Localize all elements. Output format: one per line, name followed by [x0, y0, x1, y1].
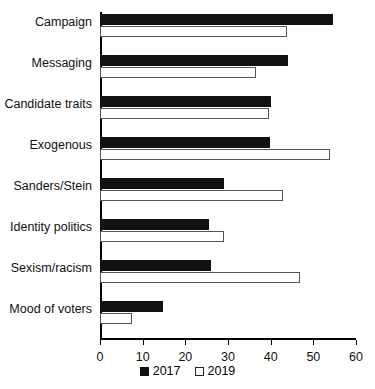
- category-label: Mood of voters: [0, 303, 92, 316]
- x-axis-tick: [228, 340, 229, 345]
- x-axis-tick: [100, 340, 101, 345]
- x-axis-tick-label: 20: [178, 350, 192, 364]
- x-axis-tick: [313, 340, 314, 345]
- x-axis-tick-label: 50: [306, 350, 320, 364]
- x-axis-tick: [143, 340, 144, 345]
- bar-2019: [100, 108, 269, 119]
- bar-group: [100, 14, 356, 38]
- bar-group: [100, 55, 356, 79]
- x-axis-tick: [356, 340, 357, 345]
- category-label: Messaging: [0, 57, 92, 70]
- bar-2017: [100, 178, 224, 189]
- bar-group: [100, 137, 356, 161]
- bar-2017: [100, 260, 211, 271]
- filled-square-icon: [140, 367, 149, 376]
- bar-2019: [100, 190, 283, 201]
- bar-chart: CampaignMessagingCandidate traitsExogeno…: [0, 0, 375, 389]
- plot-area: 0102030405060: [100, 12, 356, 340]
- category-label: Identity politics: [0, 221, 92, 234]
- bar-2017: [100, 301, 163, 312]
- bar-group: [100, 260, 356, 284]
- category-label: Sanders/Stein: [0, 180, 92, 193]
- x-axis-tick-label: 40: [264, 350, 278, 364]
- x-axis-tick-label: 30: [221, 350, 235, 364]
- category-label: Sexism/racism: [0, 262, 92, 275]
- x-axis-tick-label: 0: [97, 350, 104, 364]
- bar-2019: [100, 67, 256, 78]
- bar-2019: [100, 231, 224, 242]
- x-axis-tick-label: 60: [349, 350, 363, 364]
- bar-group: [100, 96, 356, 120]
- x-axis-tick: [271, 340, 272, 345]
- category-axis-labels: CampaignMessagingCandidate traitsExogeno…: [0, 12, 96, 340]
- bar-2017: [100, 219, 209, 230]
- bar-group: [100, 219, 356, 243]
- legend-label: 2017: [153, 364, 181, 378]
- bar-2019: [100, 313, 132, 324]
- bar-2017: [100, 96, 271, 107]
- bar-2019: [100, 26, 287, 37]
- bar-2017: [100, 55, 288, 66]
- bar-2017: [100, 137, 270, 148]
- legend-item: 2019: [195, 364, 236, 378]
- bar-2019: [100, 149, 330, 160]
- category-label: Exogenous: [0, 139, 92, 152]
- bar-2019: [100, 272, 300, 283]
- legend-label: 2019: [208, 364, 236, 378]
- category-label: Candidate traits: [0, 98, 92, 111]
- bar-group: [100, 178, 356, 202]
- bar-group: [100, 301, 356, 325]
- category-label: Campaign: [0, 16, 92, 29]
- chart-legend: 20172019: [0, 364, 375, 378]
- x-axis-tick: [185, 340, 186, 345]
- legend-item: 2017: [140, 364, 181, 378]
- hollow-square-icon: [195, 367, 204, 376]
- bar-2017: [100, 14, 333, 25]
- x-axis-tick-label: 10: [136, 350, 150, 364]
